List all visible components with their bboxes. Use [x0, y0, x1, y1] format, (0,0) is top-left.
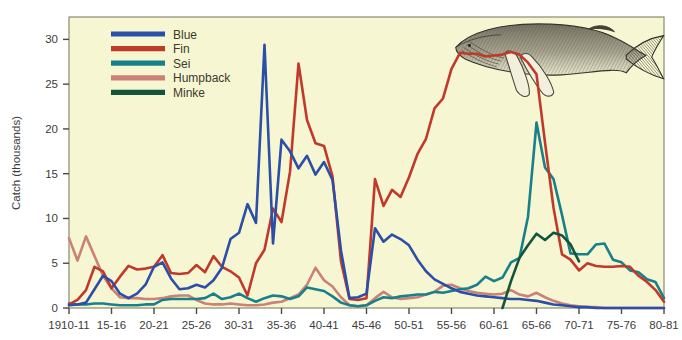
legend-label-fin: Fin — [173, 42, 190, 56]
y-axis-ticks: 051015202530 — [45, 33, 69, 314]
x-tick-label: 15-16 — [97, 319, 126, 331]
x-tick-label: 35-36 — [267, 319, 296, 331]
x-tick-label: 40-41 — [309, 319, 338, 331]
whale-eye — [468, 44, 471, 47]
legend-label-humpback: Humpback — [173, 71, 231, 85]
y-tick-label: 5 — [52, 257, 58, 269]
x-tick-label: 75-76 — [607, 319, 636, 331]
legend-label-blue: Blue — [173, 28, 197, 42]
x-tick-label: 65-66 — [522, 319, 551, 331]
x-tick-label: 80-81 — [649, 319, 678, 331]
legend-label-minke: Minke — [173, 86, 205, 100]
x-tick-label: 1910-11 — [48, 319, 89, 331]
y-tick-label: 10 — [45, 212, 58, 224]
y-tick-label: 25 — [45, 78, 58, 90]
y-tick-label: 20 — [45, 123, 58, 135]
y-tick-label: 30 — [45, 33, 58, 45]
x-tick-label: 70-71 — [564, 319, 593, 331]
x-tick-label: 55-56 — [437, 319, 466, 331]
x-axis-ticks: 1910-1115-1620-2125-2630-3135-3640-4145-… — [48, 308, 678, 331]
x-tick-label: 50-51 — [394, 319, 423, 331]
y-tick-label: 0 — [52, 302, 58, 314]
y-axis-title: Catch (thousands) — [10, 116, 22, 210]
x-tick-label: 45-46 — [352, 319, 381, 331]
x-tick-label: 30-31 — [224, 319, 253, 331]
x-tick-label: 20-21 — [139, 319, 168, 331]
whale-catch-line-chart: Catch (thousands) 051015202530 1910-1115… — [0, 0, 682, 340]
y-tick-label: 15 — [45, 168, 58, 180]
legend-label-sei: Sei — [173, 57, 190, 71]
chart-figure: Catch (thousands) 051015202530 1910-1115… — [0, 0, 682, 340]
x-tick-label: 25-26 — [182, 319, 211, 331]
x-tick-label: 60-61 — [479, 319, 508, 331]
